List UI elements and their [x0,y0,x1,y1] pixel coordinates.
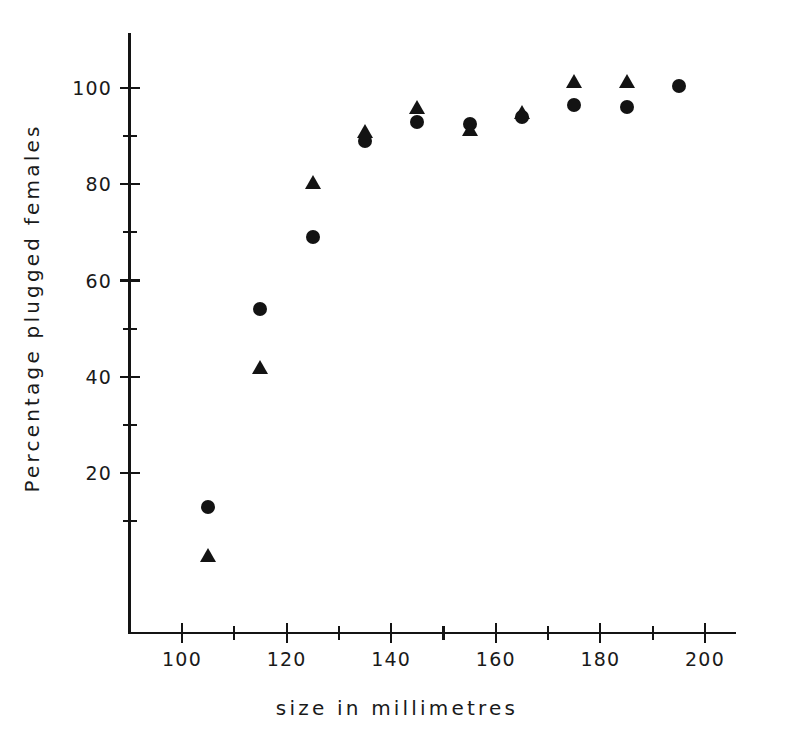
x-axis-minor-tick [338,626,340,640]
y-axis-minor-tick [123,328,137,330]
data-point-circle [410,115,424,129]
data-point-triangle [619,74,635,88]
y-axis-line [128,33,131,634]
y-axis-tick-label: 60 [34,270,112,292]
data-point-triangle [357,124,373,138]
data-point-circle [201,500,215,514]
y-axis-minor-tick [123,231,137,233]
data-point-circle [620,100,634,114]
x-axis-major-tick [286,623,288,643]
y-axis-minor-tick [123,424,137,426]
data-point-circle [567,98,581,112]
x-axis-tick-label: 160 [476,648,516,670]
x-axis-line [128,632,736,635]
x-axis-tick-label: 100 [162,648,202,670]
data-point-triangle [200,548,216,562]
scatter-plot-figure: 20406080100 100120140160180200 Percentag… [0,0,794,747]
y-axis-major-tick [120,87,140,89]
data-point-circle [253,302,267,316]
x-axis-major-tick [495,623,497,643]
y-axis-tick-label: 40 [34,366,112,388]
data-point-triangle [305,175,321,189]
x-axis-tick-label: 120 [267,648,307,670]
x-axis-tick-label: 140 [371,648,411,670]
y-axis-minor-tick [123,520,137,522]
x-axis-minor-tick [442,626,444,640]
y-axis-tick-label: 80 [34,173,112,195]
data-point-circle [306,230,320,244]
y-axis-major-tick [120,279,140,281]
data-point-triangle [462,122,478,136]
y-axis-major-tick [120,183,140,185]
x-axis-major-tick [390,623,392,643]
y-axis-tick-label: 100 [34,77,112,99]
x-axis-major-tick [704,623,706,643]
y-axis-major-tick [120,376,140,378]
y-axis-minor-tick [123,135,137,137]
data-point-triangle [409,100,425,114]
x-axis-tick-label: 180 [580,648,620,670]
x-axis-title: size in millimetres [0,696,794,720]
y-axis-major-tick [120,472,140,474]
x-axis-tick-label: 200 [685,648,725,670]
x-axis-minor-tick [233,626,235,640]
data-point-triangle [252,360,268,374]
y-axis-tick-label: 20 [34,462,112,484]
y-axis-title: Percentage plugged females [20,8,44,608]
x-axis-minor-tick [547,626,549,640]
data-point-circle [672,79,686,93]
x-axis-major-tick [181,623,183,643]
x-axis-major-tick [599,623,601,643]
data-point-triangle [566,74,582,88]
data-point-triangle [514,105,530,119]
x-axis-minor-tick [652,626,654,640]
